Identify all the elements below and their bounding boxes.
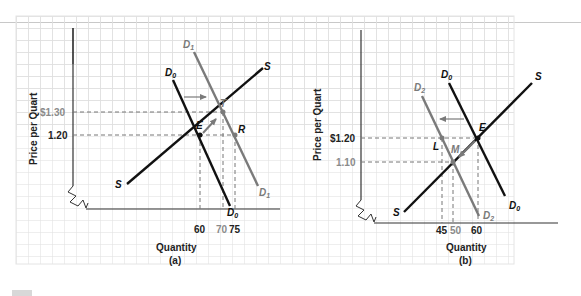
point-l-label: L xyxy=(433,141,439,152)
supply-demand-diagram: Price per Quart $1.30 1.20 60 70 75 Quan… xyxy=(0,0,581,296)
point-m xyxy=(451,160,456,165)
y-axis-label-a: Price per Quart xyxy=(28,92,39,165)
label-s-bottom-a: S xyxy=(115,179,122,190)
label-d0-bottom-b: D0 xyxy=(509,200,520,212)
q-45-label: 45 xyxy=(436,225,448,236)
point-r xyxy=(233,133,238,138)
point-e-a xyxy=(198,133,203,138)
q-60-label-b: 60 xyxy=(471,225,483,236)
point-t xyxy=(221,110,226,115)
x-axis-label-a: Quantity xyxy=(156,242,197,253)
label-s-bottom-b: S xyxy=(393,207,400,218)
point-m-label: M xyxy=(451,144,460,155)
label-s-top-a: S xyxy=(264,61,271,72)
caption-b: (b) xyxy=(459,255,472,266)
point-e-b xyxy=(476,136,481,141)
price-110-label: 1.10 xyxy=(336,157,356,168)
footer-marker xyxy=(12,290,32,296)
point-e-label-b: E xyxy=(479,122,486,133)
point-e-label-a: E xyxy=(196,120,203,131)
price-130-label: $1.30 xyxy=(40,107,65,118)
point-t-label: T xyxy=(220,98,227,109)
point-r-label: R xyxy=(238,124,246,135)
price-120-label: 1.20 xyxy=(48,130,68,141)
label-s-top-b: S xyxy=(535,71,542,82)
q-50-label: 50 xyxy=(450,225,462,236)
q-60-label: 60 xyxy=(194,224,206,235)
price-120-label-b: $1.20 xyxy=(330,133,355,144)
caption-a: (a) xyxy=(169,255,181,266)
q-70-label: 70 xyxy=(216,224,228,235)
y-axis-label-b: Price per Quart xyxy=(312,88,323,161)
x-axis-label-b: Quantity xyxy=(446,242,487,253)
q-75-label: 75 xyxy=(229,224,241,235)
point-l xyxy=(440,136,445,141)
